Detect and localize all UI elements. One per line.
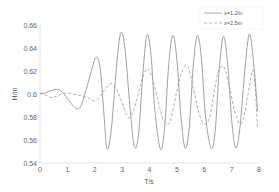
- data-series: [40, 32, 258, 149]
- y-tick-label: 0.64: [23, 45, 37, 52]
- x-tick-label: 0: [38, 166, 42, 173]
- series-line-x1-2m: [40, 32, 258, 149]
- x-tick-label: 6: [202, 166, 206, 173]
- plot-area: 012345678 0.540.560.580.60.620.640.66: [23, 22, 261, 174]
- y-tick-label: 0.66: [23, 22, 37, 29]
- x-tick-label: 1: [65, 166, 69, 173]
- legend-label-x1: x=1.2m: [224, 10, 243, 16]
- x-tick-label: 4: [148, 166, 152, 173]
- y-tick-label: 0.56: [23, 137, 37, 144]
- y-tick-label: 0.54: [23, 160, 37, 167]
- line-chart: 012345678 0.540.560.580.60.620.640.66 T/…: [0, 0, 279, 192]
- y-tick-label: 0.62: [23, 68, 37, 75]
- x-tick-labels: 012345678: [38, 166, 261, 173]
- x-axis-title: T/s: [144, 178, 154, 185]
- legend-label-x2: x=2.5m: [224, 20, 243, 26]
- legend: x=1.2m x=2.5m: [200, 7, 263, 29]
- x-tick-label: 2: [93, 166, 97, 173]
- x-tick-label: 5: [175, 166, 179, 173]
- y-tick-label: 0.6: [27, 91, 37, 98]
- series-line-x2-5m: [40, 65, 258, 128]
- x-tick-label: 7: [230, 166, 234, 173]
- y-tick-label: 0.58: [23, 114, 37, 121]
- y-axis-title: H/m: [11, 87, 18, 100]
- x-tick-label: 8: [257, 166, 261, 173]
- x-tick-label: 3: [120, 166, 124, 173]
- y-tick-labels: 0.540.560.580.60.620.640.66: [23, 22, 37, 167]
